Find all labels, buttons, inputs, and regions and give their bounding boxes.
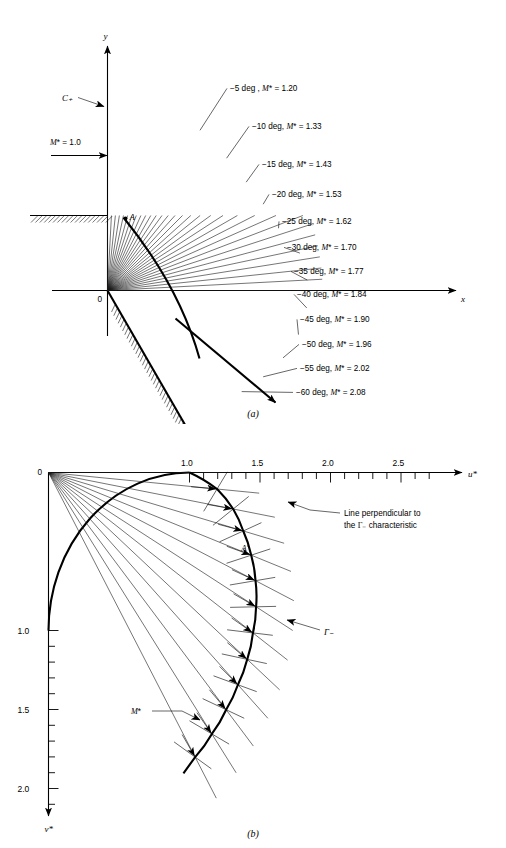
panel-b-u-tick-label: 1.0: [181, 458, 193, 468]
panel-b-origin-label: 0: [38, 468, 43, 477]
panel-b-u-axis-label: u*: [468, 469, 478, 479]
panel-a-ray-label: −20 deg, M* = 1.53: [272, 190, 342, 199]
panel-b-mstar-label: M*: [130, 707, 142, 716]
panel-b-svg: u*v*01.01.52.02.51.01.52.0A′Line perpend…: [0, 424, 506, 848]
panel-a-inflow-label: M* = 1.0: [49, 138, 81, 147]
panel-a-point-a-marker: [124, 217, 128, 221]
panel-a-ray-leader: [227, 126, 249, 158]
panel-a-ray-leader: [246, 164, 259, 182]
panel-b-gamma-leader: [287, 620, 320, 630]
panel-a-ray-label: −15 deg, M* = 1.43: [262, 160, 332, 169]
panel-b-v-ticks: [49, 631, 59, 805]
panel-a-outflow-arrow: [176, 319, 276, 403]
panel-b-gamma-label: Γ₋: [323, 627, 334, 637]
panel-b-radial-rays: [49, 473, 294, 799]
panel-a-ray-leader: [263, 368, 297, 376]
caption-a: (a): [0, 408, 506, 419]
panel-a-ray-leader: [200, 88, 227, 130]
panel-b-gamma-minus-characteristic: [183, 473, 256, 774]
panel-a-ray-label: −55 deg, M* = 2.02: [300, 364, 370, 373]
panel-a-expansion-fan: [108, 216, 323, 291]
panel-b-annotation-line1: Line perpendicular to: [344, 509, 421, 518]
panel-a-ray-label: −50 deg, M* = 1.96: [302, 340, 372, 349]
panel-b-annotation-arrow: [288, 502, 310, 510]
panel-a-ray-labels: −5 deg , M* = 1.20−10 deg, M* = 1.33−15 …: [200, 84, 372, 397]
panel-a-ray-label: −10 deg, M* = 1.33: [252, 122, 322, 131]
panel-a-svg: yx0M* = 1.0AC₊−5 deg , M* = 1.20−10 deg,…: [0, 0, 506, 424]
panel-b-perpendicular-lines: [174, 472, 276, 769]
panel-a-ray-leader: [242, 392, 293, 393]
panel-b-mstar-arrow: [182, 711, 200, 720]
panel-b-hodograph-plane: u*v*01.01.52.02.51.01.52.0A′Line perpend…: [0, 424, 506, 848]
panel-b-u-ticks: [190, 473, 430, 483]
panel-b-u-tick-label: 1.5: [252, 458, 264, 468]
panel-a-ray-label: −5 deg , M* = 1.20: [230, 84, 298, 93]
panel-a-origin-label: 0: [98, 295, 103, 304]
panel-a-y-axis-label: y: [103, 31, 108, 41]
panel-b-v-tick-label: 1.5: [18, 705, 30, 715]
panel-a-x-axis-label: x: [460, 294, 465, 304]
panel-a-point-a-label: A: [129, 212, 136, 222]
panel-a-ray-leader: [297, 319, 298, 334]
caption-b: (b): [0, 828, 506, 839]
panel-b-v-tick-label: 1.0: [18, 626, 30, 636]
panel-b-point-a-prime-label: A′: [240, 543, 249, 553]
panel-a-ray-leader: [283, 344, 299, 357]
panel-a-physical-plane: yx0M* = 1.0AC₊−5 deg , M* = 1.20−10 deg,…: [0, 0, 506, 424]
panel-a-ray-label: −60 deg, M* = 2.08: [296, 388, 366, 397]
panel-a-upper-wall-hatching: [31, 216, 112, 222]
panel-a-ray-label: −40 deg, M* = 1.84: [297, 290, 367, 299]
panel-b-v-tick-label: 2.0: [18, 784, 30, 794]
panel-b-annotation-line2: the Γ₋ characteristic: [344, 521, 417, 530]
panel-b-u-tick-label: 2.0: [322, 458, 334, 468]
panel-a-ray-leader: [263, 194, 269, 204]
figure-root: yx0M* = 1.0AC₊−5 deg , M* = 1.20−10 deg,…: [0, 0, 506, 848]
panel-a-c-plus-leader: [78, 98, 104, 107]
panel-a-c-plus-label: C₊: [62, 93, 73, 103]
panel-b-annotation-leader: [310, 510, 340, 513]
panel-a-ray-label: −35 deg, M* = 1.77: [294, 267, 364, 276]
panel-a-ray-label: −25 deg, M* = 1.62: [282, 217, 352, 226]
panel-b-u-tick-label: 2.5: [393, 458, 405, 468]
panel-a-ray-label: −45 deg, M* = 1.90: [300, 315, 370, 324]
panel-a-turned-wall: [108, 291, 192, 425]
panel-a-ray-label: −30 deg, M* = 1.70: [287, 243, 357, 252]
